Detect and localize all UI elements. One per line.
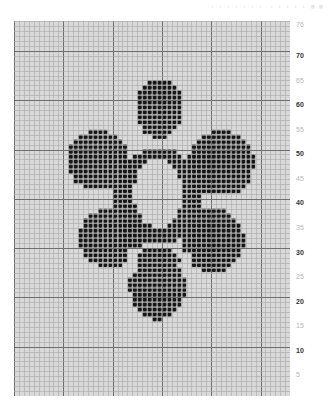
row-label: 50 bbox=[296, 150, 304, 158]
row-number-labels: 76706560555045403530252015105 bbox=[296, 0, 330, 407]
row-label: 5 bbox=[296, 371, 300, 379]
row-label: 65 bbox=[296, 77, 304, 85]
row-label: 55 bbox=[296, 126, 304, 134]
row-label: 20 bbox=[296, 298, 304, 306]
row-label: 60 bbox=[296, 101, 304, 109]
row-label: 40 bbox=[296, 199, 304, 207]
knitting-chart-grid bbox=[14, 21, 290, 396]
row-label: 45 bbox=[296, 175, 304, 183]
row-label: 10 bbox=[296, 347, 304, 355]
row-label: 70 bbox=[296, 52, 304, 60]
row-label: 15 bbox=[296, 322, 304, 330]
top-band: ・・・・・・・ ・・・・・ ■ ■ bbox=[0, 0, 330, 14]
row-label: 25 bbox=[296, 273, 304, 281]
row-label: 76 bbox=[296, 21, 304, 29]
pattern-canvas bbox=[14, 21, 290, 396]
row-label: 35 bbox=[296, 224, 304, 232]
row-label: 30 bbox=[296, 249, 304, 257]
